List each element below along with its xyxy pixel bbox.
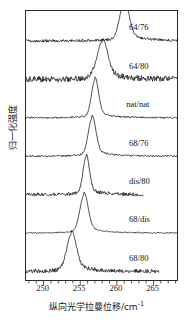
trace-label-68-76: 68/76 [129, 138, 148, 148]
trace-label-nat-nat: nat/nat [126, 99, 149, 109]
raman-spectra-figure: 归一化强度 250255260265 纵向光学拉曼位移/cm-1 64/7664… [0, 0, 193, 322]
x-axis-label-text: 纵向光学拉曼位移/cm [49, 302, 138, 312]
spectrum-trace [26, 115, 177, 157]
x-axis-ticks [25, 281, 176, 287]
spectrum-trace [26, 230, 159, 273]
trace-label-68-dis: 68/dis [129, 214, 150, 224]
trace-label-64-80: 64/80 [129, 61, 148, 71]
spectrum-trace [26, 39, 177, 82]
spectrum-trace [26, 11, 177, 42]
trace-label-68-80: 68/80 [129, 253, 148, 263]
spectrum-trace [26, 154, 143, 196]
x-axis-label: 纵向光学拉曼位移/cm-1 [0, 300, 193, 313]
x-axis-label-exponent: -1 [138, 300, 144, 308]
spectrum-trace [26, 77, 177, 119]
trace-label-dis-80: dis/80 [129, 176, 150, 186]
spectrum-trace [26, 192, 177, 233]
trace-label-64-76: 64/76 [129, 22, 148, 32]
plot-area [25, 10, 178, 281]
y-axis-label: 归一化强度 [6, 77, 20, 177]
spectra-canvas [26, 11, 177, 280]
